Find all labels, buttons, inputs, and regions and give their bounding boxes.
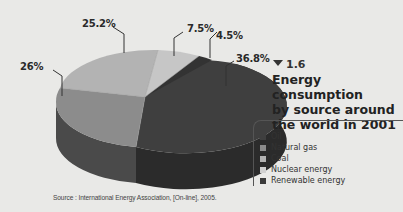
label-coal: 25.2% <box>82 18 116 29</box>
swatch-icon <box>260 156 266 162</box>
swatch-icon <box>260 178 266 184</box>
swatch-icon <box>260 145 266 151</box>
legend-item-natural-gas: Natural gas <box>260 142 345 153</box>
legend-item-nuclear: Nuclear energy <box>260 164 345 175</box>
legend-item-coal: Coal <box>260 153 345 164</box>
triangle-marker-icon <box>273 60 283 66</box>
swatch-icon <box>260 167 266 173</box>
swatch-icon <box>260 134 266 140</box>
label-renewable: 4.5% <box>216 30 243 41</box>
label-natural-gas: 26% <box>20 61 43 72</box>
legend-item-oil: Oil <box>260 131 345 142</box>
source-note: Source : International Energy Associatio… <box>53 194 216 201</box>
legend: Oil Natural gas Coal Nuclear energy Rene… <box>260 131 345 186</box>
legend-item-renewable: Renewable energy <box>260 175 345 186</box>
label-oil: 36.8% <box>236 53 270 64</box>
figure-number: 1.6 <box>273 58 306 71</box>
label-nuclear: 7.5% <box>187 23 214 34</box>
